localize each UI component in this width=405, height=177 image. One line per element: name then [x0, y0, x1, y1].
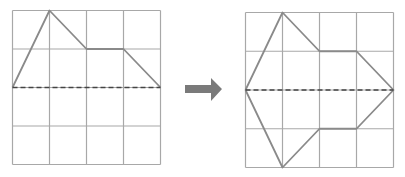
left-grid — [13, 11, 161, 165]
symmetry-diagram — [0, 0, 405, 177]
right-grid — [246, 13, 394, 168]
right-arrow-icon — [185, 78, 222, 101]
